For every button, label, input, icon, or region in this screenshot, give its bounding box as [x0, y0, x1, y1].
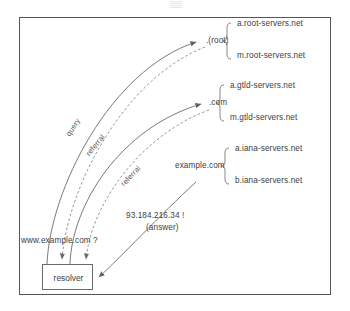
resolver-label: resolver: [43, 265, 94, 291]
zone-label-com: .com: [209, 98, 227, 107]
answer-caption: (answer): [146, 223, 179, 232]
zone-label-root: .(root): [206, 36, 229, 45]
server-example-b: b.iana-servers.net: [235, 176, 302, 185]
server-example-a: a.iana-servers.net: [235, 144, 302, 153]
server-com-m: m.gtld-servers.net: [230, 113, 297, 122]
client-question: www.example.com ?: [21, 236, 98, 245]
server-root-a: a.root-servers.net: [237, 19, 303, 28]
server-com-a: a.gtld-servers.net: [230, 81, 295, 90]
edge-referral-from-root: [62, 47, 205, 259]
resolver-box[interactable]: resolver: [42, 264, 93, 290]
edge-referral-from-com: [86, 110, 209, 259]
answer-value: 93.184.216.34 !: [126, 211, 184, 220]
diagram-canvas: .(root) a.root-servers.net m.root-server…: [0, 0, 350, 311]
server-root-m: m.root-servers.net: [237, 51, 305, 60]
zone-label-example: example.com: [175, 161, 225, 170]
